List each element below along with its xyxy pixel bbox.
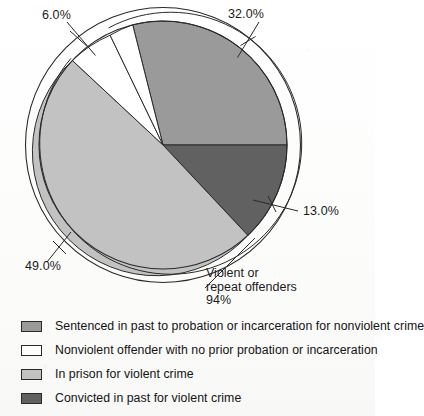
chart-legend: Sentenced in past to probation or incarc… xyxy=(21,314,373,410)
legend-swatch-icon-in-prison-violent xyxy=(21,369,42,380)
legend-item-convicted-violent[interactable]: Convicted in past for violent crime xyxy=(21,386,373,410)
leader-line-32 xyxy=(238,22,260,58)
pie-label-6-percent: 6.0% xyxy=(42,8,71,22)
legend-label-convicted-violent: Convicted in past for violent crime xyxy=(55,391,241,405)
legend-item-in-prison-violent[interactable]: In prison for violent crime xyxy=(21,362,373,386)
leader-line-6 xyxy=(67,22,96,56)
callout-line-3: 94% xyxy=(206,294,297,308)
legend-label-nonviolent-no-prior: Nonviolent offender with no prior probat… xyxy=(55,343,378,357)
legend-label-in-prison-violent: In prison for violent crime xyxy=(55,367,194,381)
legend-item-nonviolent-no-prior[interactable]: Nonviolent offender with no prior probat… xyxy=(21,338,373,362)
leader-tick-6 xyxy=(70,31,89,48)
pie-label-49-percent: 49.0% xyxy=(25,259,61,273)
legend-label-sentenced-nonviolent: Sentenced in past to probation or incarc… xyxy=(55,319,424,333)
legend-swatch-icon-convicted-violent xyxy=(21,393,42,404)
legend-item-sentenced-nonviolent[interactable]: Sentenced in past to probation or incarc… xyxy=(21,314,373,338)
legend-swatch-icon-sentenced-nonviolent xyxy=(21,321,42,332)
legend-swatch-icon-nonviolent-no-prior xyxy=(21,345,42,356)
pie-label-13-percent: 13.0% xyxy=(303,204,339,218)
callout-line-1: Violent or xyxy=(206,267,297,281)
violent-repeat-callout: Violent or repeat offenders 94% xyxy=(206,267,297,308)
callout-line-2: repeat offenders xyxy=(206,281,297,295)
pie-label-32-percent: 32.0% xyxy=(228,7,264,21)
